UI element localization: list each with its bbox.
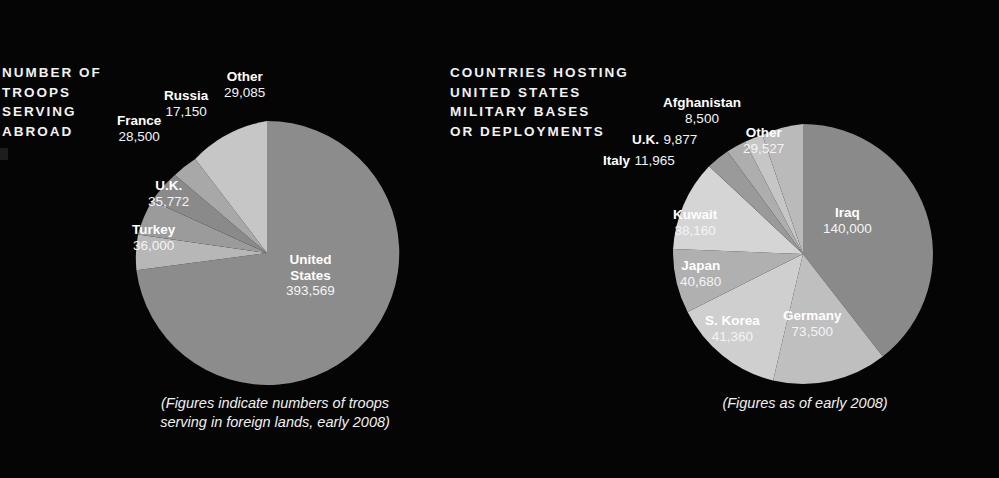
page-edge-artifact — [0, 148, 8, 160]
label-japan: Japan 40,680 — [680, 258, 721, 289]
label-other-left: Other 29,085 — [224, 69, 265, 100]
label-iraq: Iraq 140,000 — [823, 205, 872, 236]
label-other-right: Other 29,527 — [743, 125, 784, 156]
label-uk-left: U.K. 35,772 — [148, 178, 189, 209]
infographic-canvas: NUMBER OF TROOPS SERVING ABROAD United S… — [0, 0, 999, 478]
left-panel-caption: (Figures indicate numbers of troops serv… — [95, 394, 455, 432]
label-uk-right: U.K. 9,877 — [632, 131, 697, 148]
us-bases-pie-chart — [669, 120, 937, 388]
label-s-korea: S. Korea 41,360 — [705, 313, 760, 344]
label-kuwait: Kuwait 38,160 — [673, 207, 717, 238]
troops-abroad-pie-chart — [131, 117, 403, 389]
label-italy: Italy 11,965 — [603, 152, 675, 169]
right-panel-heading: COUNTRIES HOSTING UNITED STATES MILITARY… — [450, 63, 680, 141]
right-panel-caption: (Figures as of early 2008) — [660, 394, 950, 413]
label-afghanistan: Afghanistan 8,500 — [663, 95, 741, 126]
label-united-states: United States 393,569 — [286, 252, 335, 299]
pie-right-svg — [669, 120, 937, 388]
pie-left-svg — [131, 117, 403, 389]
label-turkey: Turkey 36,000 — [132, 222, 175, 253]
label-france: France 28,500 — [117, 113, 161, 144]
label-russia: Russia 17,150 — [164, 88, 208, 119]
label-germany: Germany 73,500 — [783, 308, 842, 339]
